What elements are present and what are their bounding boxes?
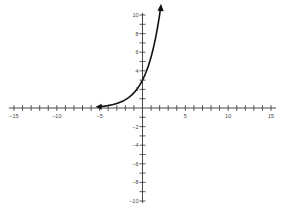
x-tick-label: 5 [184,113,187,119]
y-tick-label: −4 [132,142,138,148]
y-tick-label: −2 [132,124,138,130]
x-tick-label: −15 [9,113,18,119]
y-tick-label: −6 [132,161,138,167]
y-tick-label: 8 [135,31,138,37]
axes [9,13,276,203]
y-tick-label: 4 [135,68,138,74]
x-tick-label: 15 [268,113,274,119]
coordinate-plane: −15−10−551015108642−2−4−6−8−10 [0,0,281,216]
x-tick-label: −10 [52,113,61,119]
curve-arrow-left-icon [96,104,102,110]
y-tick-label: 10 [132,12,138,18]
y-tick-label: −10 [129,198,138,204]
x-tick-label: −5 [97,113,103,119]
x-tick-label: 10 [225,113,231,119]
y-tick-label: −8 [132,179,138,185]
y-tick-label: 6 [135,49,138,55]
curve-arrow-up-icon [157,4,163,12]
exponential-curve [100,9,161,107]
